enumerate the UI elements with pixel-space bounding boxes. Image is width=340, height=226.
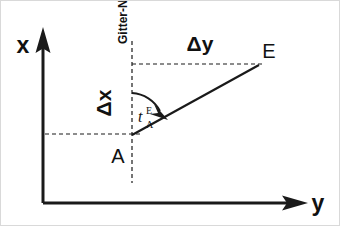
y-axis-label: y [312, 190, 325, 216]
guide-lines-group [45, 41, 263, 183]
angle-symbol-subscript: A [146, 119, 154, 130]
point-label-a: A [111, 145, 125, 167]
angle-arc-arrowhead-icon [150, 104, 168, 120]
azimuth-diagram: x y Δx Δy Gitter-Nord t E A [1, 1, 340, 226]
angle-symbol-superscript: E [146, 105, 152, 116]
angle-symbol-group: t E A [138, 105, 154, 130]
grid-north-label: Gitter-Nord [116, 1, 130, 44]
point-label-e: E [262, 40, 275, 62]
delta-y-label: Δy [187, 32, 214, 55]
angle-symbol-base: t [138, 108, 143, 125]
figure-container: x y Δx Δy Gitter-Nord t E A [0, 0, 340, 226]
x-axis-label: x [17, 32, 30, 58]
delta-x-label: Δx [92, 89, 115, 116]
